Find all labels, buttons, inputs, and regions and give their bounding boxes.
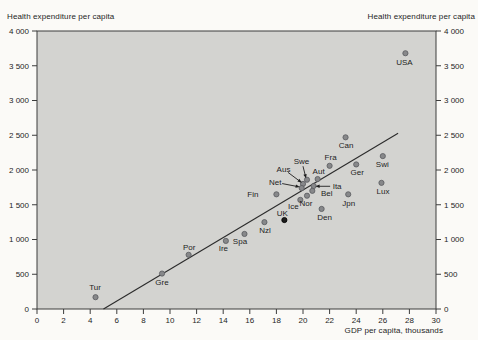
- country-label-usa: USA: [396, 58, 413, 67]
- data-point-por: [186, 252, 191, 257]
- country-label-uk: UK: [277, 209, 289, 218]
- data-point-fra: [327, 163, 332, 168]
- y-tick-label-right: 2 500: [444, 131, 465, 140]
- x-tick-label: 24: [352, 316, 361, 325]
- y-tick-label-right: 1 500: [444, 201, 465, 210]
- data-point-bel: [310, 188, 315, 193]
- y-tick-label-right: 1 000: [444, 235, 465, 244]
- country-label-nzl: Nzl: [259, 226, 271, 235]
- country-label-spa: Spa: [233, 237, 248, 246]
- x-tick-label: 6: [115, 316, 120, 325]
- data-point-can: [343, 135, 348, 140]
- data-point-nzl: [262, 220, 267, 225]
- y-tick-label-left: 500: [16, 270, 30, 279]
- country-label-bel: Bel: [321, 189, 333, 198]
- country-label-gre: Gre: [155, 278, 169, 287]
- health-expenditure-vs-gdp-scatter-chart: 005005001 0001 0001 5001 5002 0002 0002 …: [0, 0, 478, 340]
- data-point-swe: [304, 177, 309, 182]
- scatter-plot-figure: Health expenditure per capita Health exp…: [0, 0, 478, 340]
- y-tick-label-right: 3 500: [444, 62, 465, 71]
- country-label-por: Por: [183, 243, 196, 252]
- data-point-lux: [379, 180, 384, 185]
- x-tick-label: 20: [299, 316, 308, 325]
- country-label-swe: Swe: [294, 157, 310, 166]
- x-tick-label: 22: [325, 316, 334, 325]
- country-label-ita: Ita: [333, 182, 342, 191]
- y-tick-label-left: 3 000: [9, 96, 30, 105]
- data-point-uk: [282, 217, 287, 222]
- y-tick-label-left: 0: [25, 305, 30, 314]
- x-tick-label: 28: [405, 316, 414, 325]
- country-label-ice: Ice: [288, 202, 299, 211]
- data-point-jpn: [346, 192, 351, 197]
- y-tick-label-left: 3 500: [9, 62, 30, 71]
- data-point-aut: [315, 176, 320, 181]
- data-point-net: [299, 185, 304, 190]
- x-tick-label: 18: [272, 316, 281, 325]
- x-tick-label: 0: [35, 316, 40, 325]
- y-tick-label-left: 1 000: [9, 235, 30, 244]
- country-label-ire: Ire: [219, 244, 229, 253]
- x-tick-label: 26: [378, 316, 387, 325]
- country-label-fra: Fra: [325, 153, 338, 162]
- country-label-net: Net: [269, 178, 282, 187]
- x-tick-label: 14: [219, 316, 228, 325]
- country-label-lux: Lux: [377, 187, 390, 196]
- x-tick-label: 2: [61, 316, 66, 325]
- x-tick-label: 12: [192, 316, 201, 325]
- y-tick-label-right: 4 000: [444, 27, 465, 36]
- country-label-nor: Nor: [300, 199, 313, 208]
- data-point-ita: [311, 183, 316, 188]
- data-point-swi: [380, 154, 385, 159]
- y-tick-label-left: 1 500: [9, 201, 30, 210]
- data-point-gre: [159, 271, 164, 276]
- x-tick-label: 10: [166, 316, 175, 325]
- data-point-spa: [242, 231, 247, 236]
- y-tick-label-right: 3 000: [444, 96, 465, 105]
- data-point-ger: [354, 162, 359, 167]
- country-label-can: Can: [339, 141, 354, 150]
- country-label-swi: Swi: [376, 160, 389, 169]
- country-label-aut: Aut: [313, 167, 326, 176]
- data-point-fin: [274, 192, 279, 197]
- x-tick-label: 8: [141, 316, 146, 325]
- data-point-tur: [93, 295, 98, 300]
- country-label-den: Den: [317, 213, 332, 222]
- country-label-jpn: Jpn: [342, 199, 355, 208]
- y-tick-label-right: 500: [444, 270, 458, 279]
- x-axis-title: GDP per capita, thousands: [345, 326, 443, 335]
- y-tick-label-right: 2 000: [444, 166, 465, 175]
- country-label-tur: Tur: [89, 283, 101, 292]
- country-label-aus: Aus: [277, 165, 291, 174]
- x-tick-label: 4: [88, 316, 93, 325]
- country-label-fin: Fin: [247, 190, 258, 199]
- y-tick-label-left: 2 500: [9, 131, 30, 140]
- y-tick-label-left: 2 000: [9, 166, 30, 175]
- x-tick-label: 16: [245, 316, 254, 325]
- y-tick-label-left: 4 000: [9, 27, 30, 36]
- data-point-usa: [403, 51, 408, 56]
- data-point-den: [319, 206, 324, 211]
- country-label-ger: Ger: [351, 168, 365, 177]
- y-tick-label-right: 0: [444, 305, 449, 314]
- plot-area: [37, 31, 436, 309]
- x-tick-label: 30: [432, 316, 441, 325]
